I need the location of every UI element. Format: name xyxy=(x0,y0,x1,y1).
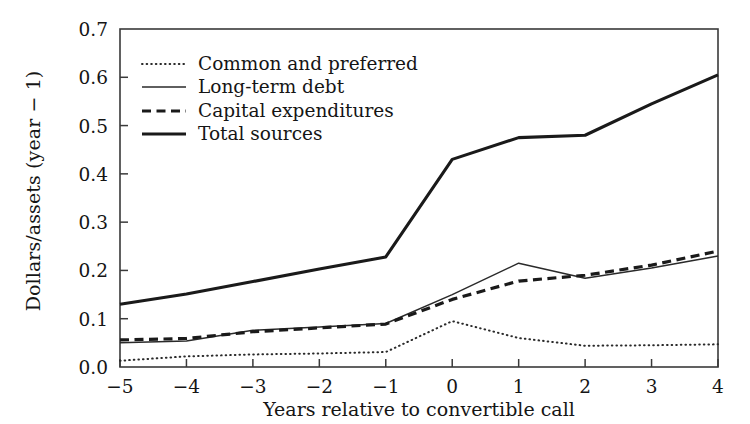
legend-item: Capital expenditures xyxy=(141,99,418,123)
legend-item: Long-term debt xyxy=(141,76,418,100)
chart-legend: Common and preferredLong-term debtCapita… xyxy=(141,52,418,146)
legend-item: Total sources xyxy=(141,123,418,147)
legend-item-label: Capital expenditures xyxy=(198,102,394,121)
legend-line-swatch-icon xyxy=(141,127,187,141)
series-line-common-and-preferred xyxy=(120,321,718,361)
legend-item-label: Total sources xyxy=(198,125,323,144)
legend-item-label: Common and preferred xyxy=(198,55,418,74)
legend-line-swatch-icon xyxy=(141,80,187,94)
series-line-capital-expenditures xyxy=(120,251,718,340)
legend-item: Common and preferred xyxy=(141,52,418,76)
legend-line-swatch-icon xyxy=(141,57,187,71)
legend-line-swatch-icon xyxy=(141,104,187,118)
chart-figure: Dollars/assets (year − 1) 0.00.10.20.30.… xyxy=(0,0,750,424)
legend-item-label: Long-term debt xyxy=(198,78,344,97)
